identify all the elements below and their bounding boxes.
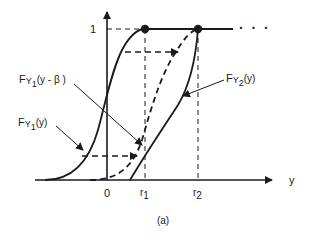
tick-label-zero: 0 — [104, 187, 110, 199]
label-fy2: FY2(y) — [226, 72, 255, 88]
level-one-label: 1 — [90, 23, 96, 35]
x-axis-label: y — [289, 174, 295, 186]
continuation-dots: · · · — [239, 20, 271, 36]
tick-label-r2: r2 — [193, 187, 202, 201]
tick-label-r1: r1 — [140, 187, 149, 201]
label-fy1-shifted: FY1(y - β ) — [19, 73, 66, 89]
leader-fy1 — [56, 126, 83, 150]
cdf-shift-diagram: · · · 1 y 0 r1 r2 FY1(y - β ) FY1(y) FY2… — [0, 0, 310, 243]
r2-saturation-dot — [194, 25, 202, 33]
r1-saturation-dot — [141, 25, 149, 33]
figure-caption: (a) — [157, 215, 169, 226]
label-fy1: FY1(y) — [18, 116, 47, 132]
leader-fy2 — [183, 80, 224, 96]
